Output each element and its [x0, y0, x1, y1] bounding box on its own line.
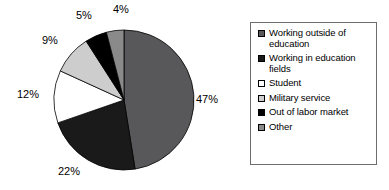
- slice-label-working-outside-of-education: 47%: [196, 94, 218, 105]
- legend-item-label: Student: [269, 78, 301, 89]
- legend-item-out-of-labor-market[interactable]: Out of labor market: [258, 107, 372, 118]
- slice-label-military-service: 9%: [42, 35, 58, 46]
- legend-swatch-icon: [258, 80, 265, 87]
- pie-chart-plot-area: 47% 22% 12% 9% 5% 4%: [0, 0, 250, 190]
- legend-item-working-outside-of-education[interactable]: Working outside of education: [258, 28, 372, 49]
- legend-swatch-icon: [258, 55, 265, 62]
- legend-item-label: Military service: [269, 93, 330, 104]
- legend-item-label: Working in education fields: [269, 53, 372, 74]
- slice-label-working-in-education-fields: 22%: [58, 166, 80, 177]
- legend-item-label: Other: [269, 122, 292, 133]
- legend: Working outside of education Working in …: [250, 22, 377, 165]
- legend-swatch-icon: [258, 124, 265, 131]
- slice-label-other: 4%: [113, 4, 129, 15]
- pie-slice-working-outside-of-education[interactable]: [124, 30, 194, 169]
- legend-swatch-icon: [258, 30, 265, 37]
- legend-item-label: Out of labor market: [269, 107, 348, 118]
- legend-swatch-icon: [258, 109, 265, 116]
- legend-item-military-service[interactable]: Military service: [258, 93, 372, 104]
- legend-swatch-icon: [258, 95, 265, 102]
- legend-item-working-in-education-fields[interactable]: Working in education fields: [258, 53, 372, 74]
- slice-label-student: 12%: [17, 89, 39, 100]
- legend-item-other[interactable]: Other: [258, 122, 372, 133]
- legend-item-student[interactable]: Student: [258, 78, 372, 89]
- pie-slice-group: [54, 30, 194, 170]
- slice-label-out-of-labor-market: 5%: [76, 10, 92, 21]
- pie-chart-figure: 47% 22% 12% 9% 5% 4% Working outside of …: [0, 0, 389, 190]
- legend-item-label: Working outside of education: [269, 28, 372, 49]
